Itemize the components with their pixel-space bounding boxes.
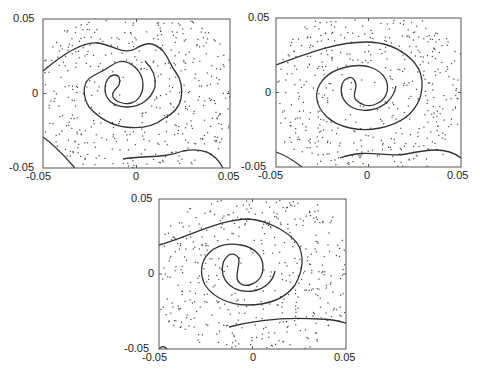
data-point [311,272,312,273]
data-point [300,246,301,247]
data-point [270,227,271,228]
data-point [207,294,208,295]
data-point [311,270,312,271]
data-point [218,258,219,259]
data-point [315,221,316,222]
data-point [280,222,281,223]
data-point [333,309,334,310]
data-point [262,334,263,335]
data-point [271,345,272,346]
data-point [298,296,299,297]
data-point [199,275,200,276]
contour-line [159,219,302,305]
data-point [209,258,210,259]
data-point [170,225,171,226]
data-point [216,300,217,301]
data-point [194,247,195,248]
data-point [180,326,181,327]
data-point [277,305,278,306]
data-point [263,291,264,292]
data-point [283,207,284,208]
data-point [169,260,170,261]
data-point [231,233,232,234]
data-point [169,320,170,321]
data-point [283,321,284,322]
data-point [263,308,264,309]
data-point [328,325,329,326]
data-point [205,263,206,264]
data-point [190,282,191,283]
data-point [320,298,321,299]
data-point [328,232,329,233]
data-point [224,271,225,272]
data-point [290,204,291,205]
data-point [319,222,320,223]
data-point [309,211,310,212]
data-point [261,243,262,244]
y-tick-label: 0 [148,268,154,279]
data-point [313,312,314,313]
data-point [179,249,180,250]
data-point [302,225,303,226]
data-point [305,329,306,330]
data-point [181,322,182,323]
data-point [211,204,212,205]
data-point [336,255,337,256]
data-point [322,222,323,223]
data-point [286,321,287,322]
data-point [331,220,332,221]
data-point [286,332,287,333]
data-point [251,340,252,341]
data-point [206,324,207,325]
data-point [184,256,185,257]
data-point [262,212,263,213]
data-point [193,248,194,249]
data-point [238,236,239,237]
data-point [175,251,176,252]
data-point [224,304,225,305]
data-point [178,285,179,286]
data-point [306,316,307,317]
data-point [268,337,269,338]
data-point [340,278,341,279]
data-point [332,217,333,218]
data-point [207,250,208,251]
data-point [255,214,256,215]
data-point [297,263,298,264]
data-point [342,293,343,294]
data-point [315,333,316,334]
data-point [298,308,299,309]
data-point [218,301,219,302]
data-point [289,232,290,233]
data-point [296,302,297,303]
data-point [281,273,282,274]
data-point [246,201,247,202]
data-point [292,246,293,247]
data-point [223,229,224,230]
data-point [239,227,240,228]
data-point [233,335,234,336]
data-point [244,313,245,314]
data-point [324,256,325,257]
data-point [219,307,220,308]
data-point [163,307,164,308]
data-point [173,236,174,237]
data-point [166,314,167,315]
data-point [329,251,330,252]
data-point [285,211,286,212]
data-point [289,275,290,276]
data-point [323,274,324,275]
data-point [263,250,264,251]
data-point [270,271,271,272]
data-point [278,218,279,219]
data-point [203,268,204,269]
data-point [317,241,318,242]
data-point [313,217,314,218]
data-point [262,318,263,319]
data-point [246,221,247,222]
data-point [325,313,326,314]
data-point [287,224,288,225]
data-point [334,308,335,309]
data-point [322,272,323,273]
data-point [202,334,203,335]
